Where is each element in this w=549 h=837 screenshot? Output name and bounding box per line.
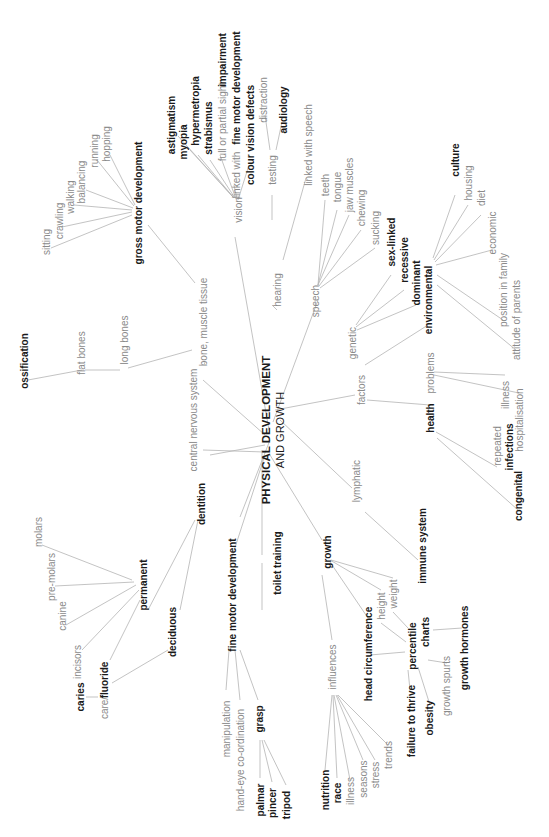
connector-line [418,667,430,705]
node-dominant: dominant [411,260,422,306]
node-problems: problems [425,352,436,393]
connector-line [365,325,428,365]
connector-line [325,695,332,770]
node-diet: diet [476,190,487,206]
node-dentition: dentition [196,483,207,525]
node-balancing: balancing [76,161,87,204]
node-running: running [89,134,100,167]
node-culture: culture [450,143,461,177]
center-node: PHYSICAL DEVELOPMENT AND GROWTH [260,356,286,505]
connector-line [112,650,168,683]
node-trends: trends [383,741,394,769]
node-recessive: recessive [399,237,410,283]
connector-line [110,600,140,660]
node-crawling: crawling [54,203,65,240]
center-title-line1: PHYSICAL DEVELOPMENT [260,356,272,505]
node-incisors: incisors [72,645,83,679]
node-impairment: impairment [217,32,228,87]
node-permanent: permanent [138,559,149,611]
node-factors: factors [356,375,367,405]
node-tongue: tongue [332,171,343,202]
node-sitting: sitting [41,229,52,255]
connector-line [337,695,375,760]
node-bone-muscle: bone, muscle tissue [198,277,209,366]
node-walking: walking [65,180,76,214]
node-attitude-parents: attitude of parents [511,280,522,360]
connector-line [434,372,505,375]
node-linked-speech: linked with speech [303,104,314,186]
node-jaw-muscles: jaw muscles [344,158,355,213]
connector-line [110,155,135,205]
node-audiology: audiology [278,86,289,134]
connector-line [320,248,375,288]
connector-line [28,370,82,380]
node-flat-bones: flat bones [76,331,87,374]
connector-line [203,380,265,435]
connector-line [82,590,139,650]
node-caries: caries [75,682,86,711]
node-pre-molars: pre-molars [46,553,57,601]
node-percentile: percentile [407,622,418,670]
connector-line [240,650,258,700]
node-position-family: position in family [498,253,509,327]
center-title-line2: AND GROWTH [274,392,286,468]
connector-line [74,205,132,210]
node-myopia: myopia [178,124,189,159]
node-seasons: seasons [358,760,369,797]
node-infections: infections [504,423,515,471]
node-chewing: chewing [356,190,367,227]
node-full-sight: full or partial sight [217,83,228,162]
connector-line [128,350,192,368]
node-lymphatic: lymphatic [351,460,362,502]
node-astigmatism: astigmatism [166,96,177,154]
node-sucking: sucking [370,211,381,245]
connector-line [148,520,195,610]
node-failure-thrive: failure to thrive [406,684,417,757]
node-linked-with: linked with [231,152,242,199]
connector-line [280,420,352,488]
node-colour-vision: colour vision defects [245,85,256,185]
node-grasp: grasp [254,705,265,732]
node-stress: stress [370,762,381,789]
connector-line [437,275,503,320]
node-speech: speech [310,285,321,317]
mind-map: visionastigmatismmyopiahypermetropiastra… [0,0,549,837]
node-molars: molars [33,517,44,547]
connector-line [86,190,133,208]
connector-line [433,195,455,258]
node-immune-system: immune system [417,508,428,584]
connector-line [226,650,229,690]
connector-line [367,400,430,405]
node-illness-g: illness [345,777,356,805]
node-long-bones: long bones [119,316,130,365]
node-manipulation: manipulation [221,701,232,758]
node-economic: economic [487,212,498,255]
node-influences: influences [327,644,338,689]
connector-line [330,560,381,590]
connector-line [370,652,405,655]
node-care: care/ [99,697,110,719]
node-housing: housing [463,165,474,200]
connector-line [436,432,497,467]
node-deciduous: deciduous [167,607,178,657]
node-race: race [332,782,343,803]
node-hopping: hopping [101,126,112,162]
node-nutrition: nutrition [320,770,331,811]
connector-line [338,695,388,745]
connector-line [319,230,361,286]
connector-line [381,623,406,642]
connector-line [180,520,198,610]
node-head-circ: head circumference [363,606,374,701]
node-pincer: pincer [267,788,278,818]
node-weight: weight [388,579,399,609]
node-charts: charts [420,617,431,647]
node-vision: vision [233,197,244,223]
node-growth-spurts: growth spurts [441,656,452,716]
connector-line [283,178,306,260]
connector-line [356,290,404,327]
node-hospitalisation: hospitalisation [514,388,525,451]
node-environmental: environmental [423,266,434,335]
connector-line [210,445,265,455]
node-palmar: palmar [255,783,266,816]
connector-line [322,575,332,640]
